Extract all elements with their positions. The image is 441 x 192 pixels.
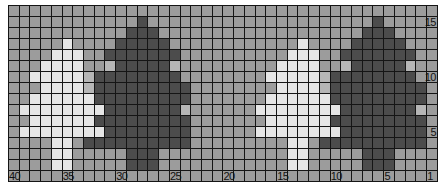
cell-dark-tree xyxy=(148,28,159,39)
cell-background xyxy=(266,39,277,50)
cell-background xyxy=(213,149,224,160)
cell-dark-tree xyxy=(95,72,106,83)
row-label: 10 xyxy=(425,72,436,83)
cell-dark-tree xyxy=(416,94,427,105)
cell-background xyxy=(223,61,234,72)
cell-light-tree xyxy=(331,127,342,138)
cell-dark-tree xyxy=(159,39,170,50)
cell-light-tree xyxy=(52,50,63,61)
cell-light-tree xyxy=(73,50,84,61)
cell-background xyxy=(298,28,309,39)
cell-light-tree xyxy=(41,72,52,83)
cell-dark-tree xyxy=(363,50,374,61)
row-label: 15 xyxy=(425,17,436,28)
cell-background xyxy=(30,28,41,39)
cell-background xyxy=(320,171,331,182)
cell-background xyxy=(277,28,288,39)
cell-background-light xyxy=(181,105,192,116)
cell-background xyxy=(191,116,202,127)
cell-background xyxy=(52,28,63,39)
cell-background xyxy=(288,6,299,17)
cell-background xyxy=(427,94,438,105)
cell-background xyxy=(395,6,406,17)
cell-background xyxy=(191,94,202,105)
cell-background xyxy=(309,149,320,160)
cell-background xyxy=(416,149,427,160)
cell-background xyxy=(331,28,342,39)
cell-dark-tree xyxy=(95,138,106,149)
cell-background xyxy=(127,6,138,17)
cell-background xyxy=(406,28,417,39)
cell-dark-tree xyxy=(363,94,374,105)
cell-light-tree xyxy=(320,105,331,116)
cell-background xyxy=(73,138,84,149)
cell-background xyxy=(20,138,31,149)
cell-light-tree xyxy=(309,105,320,116)
cell-dark-tree xyxy=(127,116,138,127)
cell-background xyxy=(245,105,256,116)
cell-background xyxy=(223,105,234,116)
cell-dark-tree xyxy=(406,72,417,83)
cell-background xyxy=(234,160,245,171)
cell-dark-tree xyxy=(373,39,384,50)
cell-light-tree xyxy=(309,94,320,105)
cell-background xyxy=(223,127,234,138)
cell-dark-tree xyxy=(384,149,395,160)
cell-background-light xyxy=(84,72,95,83)
cell-background xyxy=(234,138,245,149)
cell-light-tree xyxy=(52,138,63,149)
cell-background xyxy=(277,50,288,61)
cell-background xyxy=(320,50,331,61)
cell-background xyxy=(245,39,256,50)
cell-background xyxy=(395,160,406,171)
cell-background xyxy=(341,28,352,39)
cell-background xyxy=(395,171,406,182)
column-label: 1 xyxy=(427,171,433,182)
cell-background xyxy=(341,39,352,50)
cell-dark-tree xyxy=(384,94,395,105)
cell-background xyxy=(288,171,299,182)
cell-background xyxy=(202,127,213,138)
cell-dark-tree xyxy=(341,72,352,83)
cell-light-tree xyxy=(52,61,63,72)
cell-background xyxy=(266,160,277,171)
column-label: 35 xyxy=(63,171,74,182)
cell-dark-tree xyxy=(363,138,374,149)
cell-background xyxy=(181,149,192,160)
cell-background xyxy=(202,61,213,72)
column-label: 25 xyxy=(170,171,181,182)
cell-light-tree xyxy=(277,127,288,138)
cell-background xyxy=(223,138,234,149)
cell-background xyxy=(245,171,256,182)
cell-background xyxy=(309,160,320,171)
cell-background xyxy=(256,138,267,149)
cell-background xyxy=(213,61,224,72)
cell-dark-tree xyxy=(116,127,127,138)
cell-dark-tree xyxy=(384,39,395,50)
cell-light-tree xyxy=(20,127,31,138)
cell-dark-tree xyxy=(395,116,406,127)
cell-light-tree xyxy=(63,116,74,127)
cell-light-tree xyxy=(52,116,63,127)
cell-background xyxy=(95,160,106,171)
cell-background xyxy=(116,17,127,28)
cell-background xyxy=(213,83,224,94)
cell-background xyxy=(202,50,213,61)
cell-background xyxy=(331,39,342,50)
cell-light-tree xyxy=(30,127,41,138)
cell-dark-tree xyxy=(181,83,192,94)
cell-background xyxy=(213,17,224,28)
cell-background xyxy=(41,17,52,28)
cell-background xyxy=(266,61,277,72)
cell-background xyxy=(223,94,234,105)
cell-background xyxy=(73,17,84,28)
cell-background xyxy=(213,72,224,83)
cell-dark-tree xyxy=(341,138,352,149)
cell-background xyxy=(331,17,342,28)
cell-background xyxy=(181,171,192,182)
cell-dark-tree xyxy=(138,138,149,149)
cell-background xyxy=(20,83,31,94)
cell-background xyxy=(373,6,384,17)
cell-dark-tree xyxy=(341,127,352,138)
cell-dark-tree xyxy=(148,72,159,83)
